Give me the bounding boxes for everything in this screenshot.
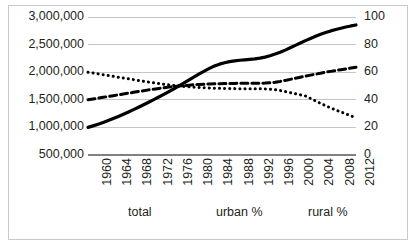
legend-item-rural[interactable]: rural %	[308, 206, 348, 219]
x-axis-tick-label: 1988	[243, 158, 256, 186]
y-axis-right-tick-label: 40	[364, 93, 378, 106]
y-axis-left-tick-label: 1,500,000	[10, 93, 84, 106]
y-axis-right-tick-label: 80	[364, 38, 378, 51]
x-axis-tick-label: 1964	[121, 158, 134, 186]
y-axis-right-tick-label: 60	[364, 65, 378, 78]
x-axis-tick: 1976	[182, 158, 195, 186]
x-axis-tick-label: 1992	[263, 158, 276, 186]
x-axis-tick: 2012	[364, 158, 377, 186]
legend-item-urban[interactable]: urban %	[216, 206, 263, 219]
y-axis-left-tick-label: 3,000,000	[10, 10, 84, 23]
plot-area	[88, 17, 356, 155]
plot-svg	[88, 17, 356, 155]
x-axis-tick: 1992	[263, 158, 276, 186]
series-lines	[88, 25, 356, 127]
x-axis-tick-label: 2000	[303, 158, 316, 186]
x-axis-tick: 1964	[121, 158, 134, 186]
x-axis-tick-label: 1980	[202, 158, 215, 186]
x-axis-tick: 1972	[162, 158, 175, 186]
y-axis-left-tick-label: 2,000,000	[10, 65, 84, 78]
x-axis-tick: 1988	[243, 158, 256, 186]
x-axis-tick-label: 1972	[162, 158, 175, 186]
x-axis-tick: 1996	[283, 158, 296, 186]
y-axis-right-tick-label: 100	[364, 10, 385, 23]
y-axis-right-tick-label: 20	[364, 120, 378, 133]
x-axis-tick: 1980	[202, 158, 215, 186]
x-axis-tick-label: 1968	[141, 158, 154, 186]
x-axis-tick-label: 2004	[323, 158, 336, 186]
x-axis-tick-label: 1996	[283, 158, 296, 186]
x-axis-tick-label: 1960	[101, 158, 114, 186]
x-axis-tick: 1968	[141, 158, 154, 186]
x-axis-tick-label: 2008	[344, 158, 357, 186]
series-line-total	[88, 25, 356, 127]
x-axis-tick-label: 1976	[182, 158, 195, 186]
x-axis-tick-label: 2012	[364, 158, 377, 186]
x-axis-tick: 2004	[323, 158, 336, 186]
y-axis-left-tick-label: 1,000,000	[10, 120, 84, 133]
x-axis-tick: 1960	[101, 158, 114, 186]
x-axis-tick: 1984	[222, 158, 235, 186]
legend-item-total[interactable]: total	[128, 206, 152, 219]
x-axis-tick: 2000	[303, 158, 316, 186]
chart-figure: 3,000,0002,500,0002,000,0001,500,0001,00…	[0, 0, 419, 251]
x-axis-tick-label: 1984	[222, 158, 235, 186]
chart-legend: totalurban %rural %	[88, 206, 378, 228]
x-axis: 1960196419681972197619801984198819921996…	[88, 158, 356, 204]
y-axis-left: 3,000,0002,500,0002,000,0001,500,0001,00…	[8, 0, 84, 251]
y-axis-left-tick-label: 2,500,000	[10, 38, 84, 51]
y-axis-left-tick-label: 500,000	[10, 148, 84, 161]
x-axis-tick: 2008	[344, 158, 357, 186]
